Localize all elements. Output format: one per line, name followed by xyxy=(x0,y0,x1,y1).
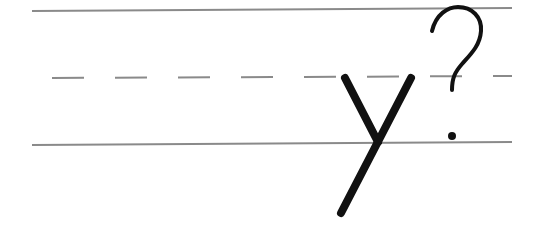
top-guide-line xyxy=(32,8,512,11)
baseline xyxy=(32,142,512,145)
handwriting-lines xyxy=(0,0,534,231)
handwriting-worksheet xyxy=(0,0,534,231)
dashed-midline xyxy=(52,76,512,78)
letter-y xyxy=(341,78,411,213)
question-mark xyxy=(432,7,481,140)
